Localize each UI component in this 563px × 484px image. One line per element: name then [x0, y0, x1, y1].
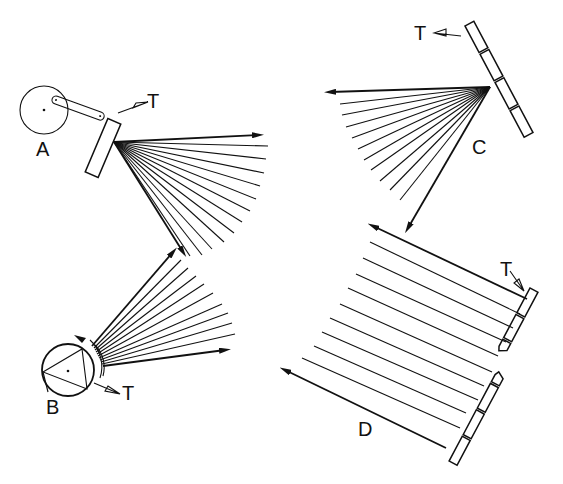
- panel-d: T D: [285, 226, 538, 465]
- beam-fan-c: [330, 87, 490, 228]
- transducer-label-d: T: [500, 258, 512, 280]
- transducer-arrow-a: [118, 102, 148, 113]
- diagram-canvas: T A T B: [0, 0, 563, 484]
- rotation-arrow-b: [74, 335, 86, 343]
- panel-b: T B: [42, 252, 235, 418]
- parallel-beams-d: [285, 226, 527, 448]
- segmented-mirror-c: [465, 21, 533, 137]
- beam-fan-a: [114, 135, 268, 256]
- transducer-label-c: T: [414, 22, 426, 44]
- panel-a: T A: [20, 86, 268, 256]
- transducer-arrow-b: [94, 383, 120, 394]
- beam-fan-b: [92, 252, 235, 366]
- panel-c: T C: [330, 21, 533, 228]
- crank-arm-a: [51, 95, 105, 121]
- mirror-a: [85, 119, 121, 178]
- transducer-arrow-c: [434, 29, 461, 36]
- transducer-label-b: T: [122, 382, 134, 404]
- panel-label-b: B: [46, 396, 59, 418]
- panel-label-d: D: [358, 418, 372, 440]
- panel-label-c: C: [472, 136, 486, 158]
- polygon-mirror-b: [43, 349, 87, 389]
- transducer-label-a: T: [147, 90, 159, 112]
- wheel-hub-a: [43, 109, 46, 112]
- panel-label-a: A: [36, 138, 50, 160]
